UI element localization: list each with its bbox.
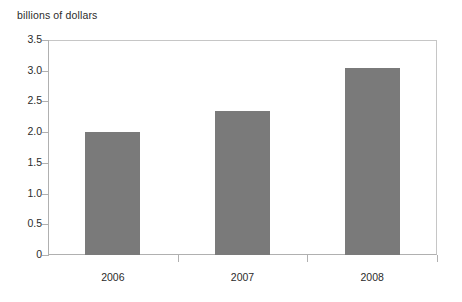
x-axis-tick-label: 2008 xyxy=(360,271,383,283)
y-axis-tick-mark xyxy=(42,132,49,133)
y-axis-tick-label: 3.0 xyxy=(27,64,42,76)
y-axis-tick: 1.5 xyxy=(0,163,56,164)
y-axis-tick: 0 xyxy=(0,255,56,256)
bar-2007 xyxy=(215,111,270,255)
y-axis-tick-mark xyxy=(42,255,49,256)
x-axis-tick-label: 2006 xyxy=(101,271,124,283)
bar-2008 xyxy=(345,68,400,255)
y-axis-tick-mark xyxy=(42,194,49,195)
y-axis-tick-mark xyxy=(42,224,49,225)
y-axis-tick-label: 0 xyxy=(36,248,42,260)
y-axis-tick-mark xyxy=(42,40,49,41)
x-axis-tick-mark xyxy=(437,255,438,262)
bar-2006 xyxy=(85,132,140,255)
x-axis-tick-mark xyxy=(307,255,308,262)
y-axis-tick-label: 3.5 xyxy=(27,33,42,45)
y-axis-tick: 3.5 xyxy=(0,40,56,41)
x-axis-tick-label: 2007 xyxy=(231,271,254,283)
y-axis-tick: 2.0 xyxy=(0,132,56,133)
y-axis-tick-mark xyxy=(42,71,49,72)
y-axis-tick-label: 2.0 xyxy=(27,125,42,137)
y-axis-tick: 0.5 xyxy=(0,224,56,225)
y-axis-tick-label: 1.5 xyxy=(27,156,42,168)
bar-chart: billions of dollars 3.53.02.52.01.51.00.… xyxy=(0,0,462,302)
y-axis-tick-mark xyxy=(42,163,49,164)
y-axis-tick: 2.5 xyxy=(0,101,56,102)
y-axis-tick-label: 1.0 xyxy=(27,187,42,199)
y-axis-tick: 1.0 xyxy=(0,194,56,195)
y-axis-tick-label: 0.5 xyxy=(27,217,42,229)
y-axis-tick: 3.0 xyxy=(0,71,56,72)
x-axis-tick-mark xyxy=(178,255,179,262)
y-axis-title: billions of dollars xyxy=(17,9,97,21)
y-axis-tick-mark xyxy=(42,101,49,102)
y-axis-tick-label: 2.5 xyxy=(27,94,42,106)
